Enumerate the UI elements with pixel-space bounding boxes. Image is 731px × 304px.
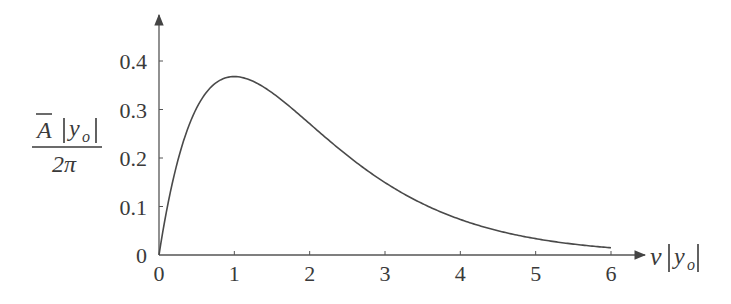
y-axis-label: A y o 2π [32,10,102,177]
axes [159,15,645,255]
x-tick-label: 3 [380,261,391,286]
data-curve [159,77,611,255]
x-label-nu: ν [650,242,662,271]
chart: 012345600.10.20.30.4 A y o 2π ν y o [0,0,731,304]
x-tick-label: 0 [154,261,165,286]
x-label-sub: o [687,256,695,273]
y-tick-label: 0.1 [120,195,148,220]
x-tick-label: 5 [530,261,541,286]
y-label-A: A [35,117,52,143]
y-label-sub: o [82,128,90,145]
x-axis-label: ν y o [650,242,698,273]
x-tick-label: 6 [606,261,617,286]
series-line [159,77,611,255]
x-tick-label: 1 [229,261,240,286]
x-tick-label: 2 [304,261,315,286]
y-label-y: y [67,115,80,141]
x-label-y: y [672,243,685,269]
ticks: 012345600.10.20.30.4 [120,49,617,286]
y-tick-label: 0.4 [120,49,148,74]
y-tick-label: 0 [136,243,147,268]
x-tick-label: 4 [455,261,466,286]
y-tick-label: 0.3 [120,98,148,123]
y-label-denominator: 2π [52,151,77,177]
y-tick-label: 0.2 [120,146,148,171]
